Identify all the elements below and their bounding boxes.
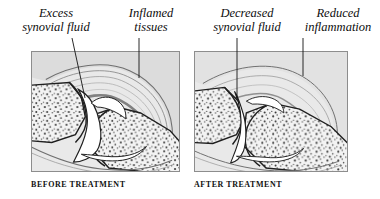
panel-before-frame	[31, 51, 180, 172]
caption-after-treatment: AFTER TREATMENT	[194, 180, 282, 189]
panel-before-treatment	[31, 51, 180, 172]
panel-after-frame	[194, 51, 348, 172]
label-excess-synovial-fluid: Excess synovial fluid	[2, 6, 110, 34]
label-decreased-synovial-fluid: Decreased synovial fluid	[192, 6, 302, 34]
label-inflamed-tissues: Inflamed tissues	[112, 6, 190, 34]
label-reduced-inflammation: Reduced inflammation	[296, 6, 380, 34]
before-treatment-illustration	[32, 52, 179, 171]
panel-after-treatment	[194, 51, 348, 172]
joint-comparison-figure: Excess synovial fluid Inflamed tissues D…	[0, 0, 380, 199]
after-treatment-illustration	[195, 52, 347, 171]
caption-before-treatment: BEFORE TREATMENT	[31, 180, 126, 189]
